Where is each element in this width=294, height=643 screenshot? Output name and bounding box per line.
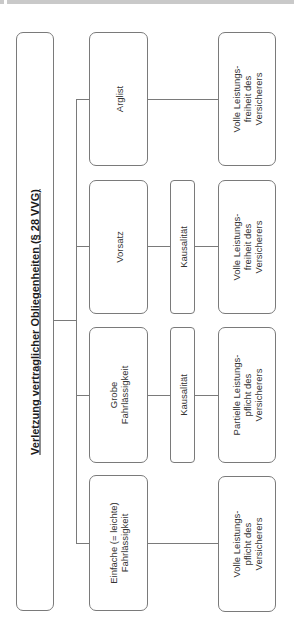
title-text-wrap: Verletzung vertraglicher Obliegenheiten …: [30, 189, 41, 455]
fault-label-vorsatz: Vorsatz: [113, 231, 124, 263]
consequence-line-1: Volle Leistungs-: [231, 65, 242, 132]
connector-trunk-vorsatz: [76, 246, 90, 247]
consequence-line-1: Partielle Leistungs-: [231, 355, 242, 436]
causality-box-vorsatz: Kausalität: [170, 180, 195, 314]
diagram-title: Verletzung vertraglicher Obliegenheiten …: [29, 189, 41, 455]
top-bar: [0, 0, 294, 4]
title-box: Verletzung vertraglicher Obliegenheiten …: [16, 32, 54, 611]
causality-box-grobe: Kausalität: [170, 327, 195, 463]
consequence-line-2: pflicht des: [242, 510, 253, 577]
consequence-line-3: Versicherers: [253, 213, 264, 280]
connector-trunk-arglist: [76, 99, 90, 100]
fault-box-arglist: Arglist: [89, 32, 148, 166]
consequence-line-1: Volle Leistungs-: [231, 510, 242, 577]
consequence-line-2: freiheit des: [242, 65, 253, 132]
consequence-line-3: Versicherers: [253, 510, 264, 577]
fault-label-arglist: Arglist: [113, 86, 124, 112]
connector-grobe-causality: [148, 395, 171, 396]
fault-box-grobe: Grobe Fahrlässigkeit: [89, 327, 148, 463]
consequence-box-grobe: Partielle Leistungs- pflicht des Versich…: [218, 327, 276, 463]
consequence-box-einfache: Volle Leistungs- pflicht des Versicherer…: [218, 476, 276, 612]
fault-label-grobe-1: Grobe: [108, 366, 119, 425]
connector-trunk: [76, 99, 77, 544]
connector-arglist-consequence: [148, 99, 219, 100]
causality-label: Kausalität: [177, 374, 188, 416]
fault-label-einfache-2: Fahrlässigkeit: [119, 502, 130, 584]
fault-box-vorsatz: Vorsatz: [89, 180, 148, 314]
top-bar-gap: [4, 0, 7, 4]
consequence-box-arglist: Volle Leistungs- freiheit des Versichere…: [218, 32, 276, 166]
fault-box-einfache: Einfache (= leichte) Fahrlässigkeit: [89, 475, 148, 611]
connector-vorsatz-causality: [148, 246, 171, 247]
connector-title-trunk: [54, 320, 77, 321]
connector-trunk-einfache: [76, 543, 90, 544]
fault-label-einfache-1: Einfache (= leichte): [108, 502, 119, 584]
consequence-line-3: Versicherers: [253, 65, 264, 132]
consequence-box-vorsatz: Volle Leistungs- freiheit des Versichere…: [218, 180, 276, 314]
connector-causality-consequence-vorsatz: [195, 246, 219, 247]
consequence-line-1: Volle Leistungs-: [231, 213, 242, 280]
connector-trunk-grobe: [76, 395, 90, 396]
consequence-line-2: pflicht des: [242, 355, 253, 436]
connector-einfache-consequence: [148, 543, 219, 544]
consequence-line-3: Versicherers: [253, 355, 264, 436]
consequence-line-2: freiheit des: [242, 213, 253, 280]
connector-causality-consequence-grobe: [195, 395, 219, 396]
causality-label: Kausalität: [177, 226, 188, 268]
fault-label-grobe-2: Fahrlässigkeit: [119, 366, 130, 425]
